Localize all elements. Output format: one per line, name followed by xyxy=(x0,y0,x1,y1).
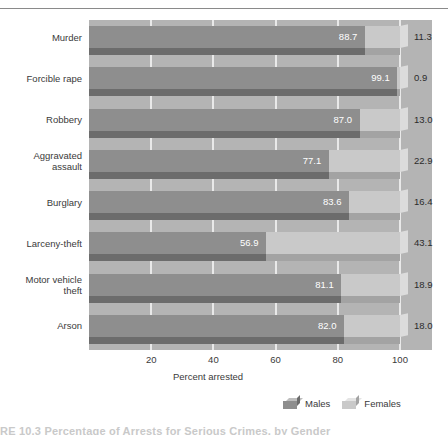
x-tick-label: 60 xyxy=(270,354,281,365)
value-label-males: 56.9 xyxy=(240,239,259,249)
category-label-line: Aggravated xyxy=(0,150,82,161)
value-label-females: 18.9 xyxy=(414,280,433,290)
bar-shadow-females xyxy=(341,296,400,303)
category-label: Robbery xyxy=(0,114,82,125)
bar-end-cap xyxy=(400,230,408,254)
category-label: Motor vehicletheft xyxy=(0,274,82,296)
bar-end-cap xyxy=(400,313,408,337)
value-label-males: 99.1 xyxy=(371,74,390,84)
bar-shadow-males xyxy=(89,48,365,55)
bar-shadow-males xyxy=(89,131,360,138)
bar-end-cap xyxy=(400,65,408,89)
bar-end-cap xyxy=(400,272,408,296)
bar-segment-males[interactable] xyxy=(89,191,349,213)
value-label-males: 83.6 xyxy=(323,197,342,207)
bar-row: 82.018.0 xyxy=(89,315,432,337)
bar-row: 99.10.9 xyxy=(89,67,432,89)
category-label-line: Forcible rape xyxy=(0,73,82,84)
category-label-line: Murder xyxy=(0,32,82,43)
value-label-females: 16.4 xyxy=(414,197,433,207)
bar-shadow-males xyxy=(89,296,341,303)
legend: Males Females xyxy=(283,398,401,409)
bar-end-cap xyxy=(400,148,408,172)
x-tick-label: 20 xyxy=(146,354,157,365)
value-label-males: 87.0 xyxy=(334,115,353,125)
bar-shadow-females xyxy=(349,213,400,220)
x-tick-label: 40 xyxy=(208,354,219,365)
bar-shadow-females xyxy=(266,254,400,261)
value-label-females: 22.9 xyxy=(414,156,433,166)
bar-row: 56.943.1 xyxy=(89,232,432,254)
bar-segment-males[interactable] xyxy=(89,109,360,131)
bar-shadow-males xyxy=(89,172,329,179)
bar-segment-males[interactable] xyxy=(89,26,365,48)
legend-label-males: Males xyxy=(305,398,330,409)
bar-end-cap xyxy=(400,107,408,131)
category-label-line: theft xyxy=(0,285,82,296)
bar-segment-females[interactable] xyxy=(365,26,400,48)
x-axis-label: Percent arrested xyxy=(0,371,448,382)
category-label-line: Burglary xyxy=(0,197,82,208)
bar-row: 83.616.4 xyxy=(89,191,432,213)
value-label-males: 77.1 xyxy=(303,156,322,166)
x-axis-label-text: Percent arrested xyxy=(173,371,243,382)
bar-segment-males[interactable] xyxy=(89,315,344,337)
category-label-line: Motor vehicle xyxy=(0,274,82,285)
legend-item-females[interactable]: Females xyxy=(342,398,400,409)
bar-row: 87.013.0 xyxy=(89,109,432,131)
value-label-females: 0.9 xyxy=(414,74,427,84)
x-tick-label: 100 xyxy=(392,354,408,365)
plot-area: 88.711.399.10.987.013.077.122.983.616.45… xyxy=(89,20,432,350)
category-label: Forcible rape xyxy=(0,73,82,84)
value-label-females: 13.0 xyxy=(414,115,433,125)
category-label-line: Robbery xyxy=(0,114,82,125)
bar-segment-males[interactable] xyxy=(89,67,397,89)
legend-label-females: Females xyxy=(364,398,400,409)
value-label-females: 18.0 xyxy=(414,321,433,331)
bar-shadow-females xyxy=(397,89,400,96)
bar-end-cap xyxy=(400,24,408,48)
category-label: Arson xyxy=(0,320,82,331)
legend-swatch-females-icon xyxy=(342,398,359,409)
category-label-line: Arson xyxy=(0,320,82,331)
bar-segment-males[interactable] xyxy=(89,150,329,172)
bar-shadow-males xyxy=(89,89,397,96)
legend-swatch-males-icon xyxy=(283,398,300,409)
bar-segment-females[interactable] xyxy=(360,109,400,131)
bar-shadow-females xyxy=(329,172,400,179)
category-label: Aggravatedassault xyxy=(0,150,82,172)
bar-shadow-females xyxy=(360,131,400,138)
bar-row: 88.711.3 xyxy=(89,26,432,48)
category-label: Larceny-theft xyxy=(0,238,82,249)
category-label: Murder xyxy=(0,32,82,43)
top-divider xyxy=(0,8,448,9)
legend-item-males[interactable]: Males xyxy=(283,398,330,409)
category-label-line: Larceny-theft xyxy=(0,238,82,249)
figure-chart: MurderForcible rapeRobberyAggravatedassa… xyxy=(0,0,448,435)
bar-shadow-females xyxy=(365,48,400,55)
value-label-males: 88.7 xyxy=(339,32,358,42)
value-label-females: 11.3 xyxy=(414,32,432,42)
bar-shadow-males xyxy=(89,337,344,344)
figure-caption: RE 10.3 Percentage of Arrests for Seriou… xyxy=(0,425,448,435)
bar-segment-females[interactable] xyxy=(344,315,400,337)
bar-segment-females[interactable] xyxy=(349,191,400,213)
bar-segment-females[interactable] xyxy=(329,150,400,172)
bar-segment-males[interactable] xyxy=(89,274,341,296)
bar-row: 77.122.9 xyxy=(89,150,432,172)
value-label-males: 81.1 xyxy=(315,280,334,290)
value-label-females: 43.1 xyxy=(414,239,433,249)
bar-end-cap xyxy=(400,189,408,213)
bar-segment-females[interactable] xyxy=(341,274,400,296)
bar-shadow-females xyxy=(344,337,400,344)
bar-row: 81.118.9 xyxy=(89,274,432,296)
value-label-males: 82.0 xyxy=(318,321,337,331)
bar-shadow-males xyxy=(89,254,266,261)
x-tick-label: 80 xyxy=(333,354,344,365)
category-label: Burglary xyxy=(0,197,82,208)
bar-shadow-males xyxy=(89,213,349,220)
bar-segment-females[interactable] xyxy=(266,232,400,254)
category-label-line: assault xyxy=(0,161,82,172)
